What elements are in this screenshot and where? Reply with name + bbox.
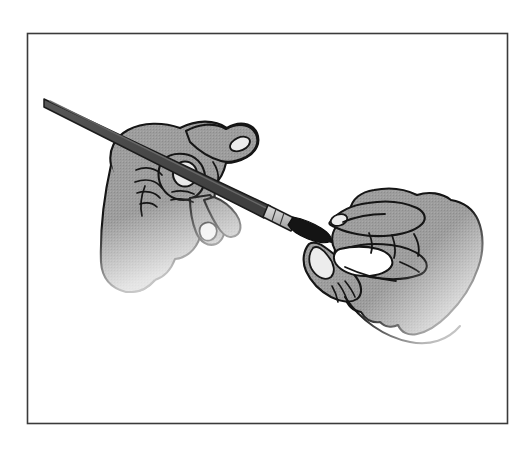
left-middle-fingernail — [200, 222, 217, 240]
hands-holding-paintbrush-illustration: Line drawing of two hands holding a fine… — [0, 0, 527, 455]
illustration-canvas: Line drawing of two hands holding a fine… — [0, 0, 527, 455]
